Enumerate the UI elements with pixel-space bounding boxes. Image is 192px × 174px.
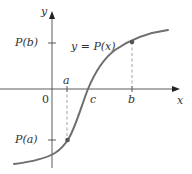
y-axis-label: y	[41, 6, 47, 17]
a-label: a	[63, 75, 70, 86]
pb-label: P(b)	[15, 37, 38, 48]
pa-label: P(a)	[15, 134, 38, 145]
diagram-canvas	[0, 0, 192, 174]
x-axis-label: x	[177, 95, 183, 106]
b-label: b	[128, 94, 135, 105]
c-label: c	[90, 94, 96, 105]
x-axis-arrow-icon	[172, 86, 180, 92]
intermediate-value-diagram: y x 0 P(b) P(a) a b c y = P(x)	[0, 0, 192, 174]
point-a-pa	[65, 138, 70, 143]
y-axis-arrow-icon	[49, 11, 55, 19]
point-b-pb	[130, 40, 135, 45]
curve-label: y = P(x)	[71, 41, 116, 52]
origin-label: 0	[42, 94, 49, 105]
